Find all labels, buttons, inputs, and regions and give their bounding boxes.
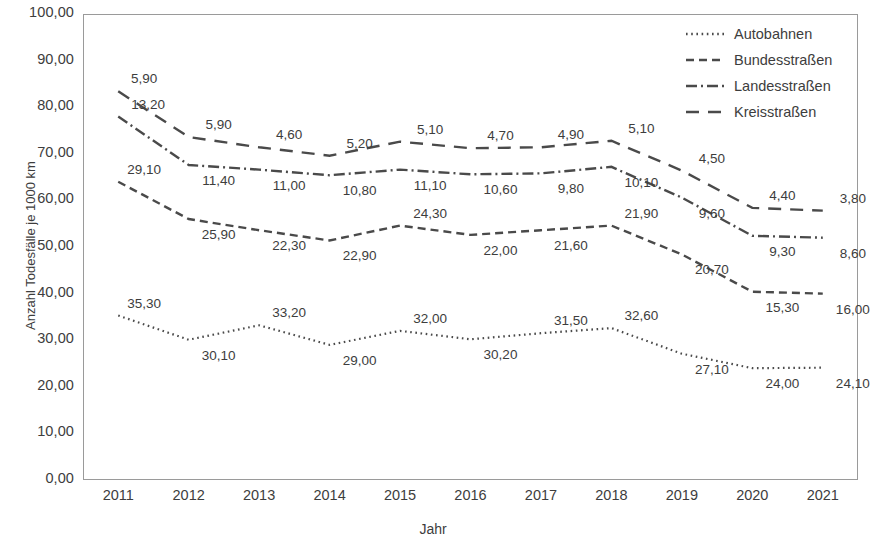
legend-item-autobahnen[interactable]: Autobahnen — [684, 24, 812, 44]
data-label: 4,60 — [276, 127, 302, 142]
data-label: 22,00 — [484, 242, 518, 257]
data-label: 5,90 — [131, 71, 157, 86]
data-label: 10,60 — [484, 182, 518, 197]
data-label: 9,30 — [769, 243, 795, 258]
data-label: 32,60 — [625, 308, 659, 323]
data-label: 35,30 — [127, 295, 161, 310]
legend-label: Autobahnen — [734, 26, 812, 42]
data-label: 11,00 — [273, 177, 306, 192]
legend-label: Bundesstraßen — [734, 52, 832, 68]
data-label: 5,10 — [417, 121, 443, 136]
data-label: 4,50 — [699, 150, 725, 165]
data-label: 29,00 — [343, 352, 377, 367]
data-label: 13,20 — [131, 96, 165, 111]
legend-line-icon — [684, 54, 726, 66]
data-label: 22,90 — [343, 248, 377, 263]
data-label: 27,10 — [695, 361, 729, 376]
data-label: 24,10 — [836, 375, 870, 390]
data-label: 5,20 — [346, 135, 372, 150]
data-label: 5,10 — [628, 120, 654, 135]
data-label: 11,10 — [414, 177, 447, 192]
data-label: 9,60 — [699, 205, 725, 220]
legend-item-landesstraßen[interactable]: Landesstraßen — [684, 76, 831, 96]
data-label: 8,60 — [840, 245, 866, 260]
data-label: 9,80 — [558, 181, 584, 196]
data-label: 4,40 — [769, 187, 795, 202]
data-label: 20,70 — [695, 262, 729, 277]
data-label: 21,90 — [625, 205, 659, 220]
data-label: 22,30 — [272, 238, 306, 253]
legend-line-icon — [684, 80, 726, 92]
legend-label: Kreisstraßen — [734, 104, 816, 120]
data-label: 31,50 — [554, 313, 588, 328]
legend-line-icon — [684, 28, 726, 40]
data-label: 3,80 — [840, 190, 866, 205]
legend-line-icon — [684, 106, 726, 118]
data-label: 30,10 — [202, 347, 236, 362]
data-label: 25,90 — [202, 227, 236, 242]
data-label: 15,30 — [765, 299, 799, 314]
legend-item-bundesstraßen[interactable]: Bundesstraßen — [684, 50, 832, 70]
data-label: 10,80 — [343, 183, 377, 198]
data-label: 33,20 — [272, 305, 306, 320]
data-label: 24,00 — [765, 376, 799, 391]
data-label: 5,90 — [206, 117, 232, 132]
data-label: 24,30 — [413, 205, 447, 220]
legend-label: Landesstraßen — [734, 78, 831, 94]
chart-legend: AutobahnenBundesstraßenLandesstraßenKrei… — [662, 14, 858, 120]
data-label: 29,10 — [127, 161, 161, 176]
data-label: 16,00 — [836, 301, 870, 316]
data-label: 21,60 — [554, 238, 588, 253]
data-label: 30,20 — [484, 347, 518, 362]
data-label: 32,00 — [413, 310, 447, 325]
data-label: 11,40 — [202, 172, 235, 187]
data-label: 4,90 — [558, 127, 584, 142]
data-label: 4,70 — [487, 128, 513, 143]
legend-item-kreisstraßen[interactable]: Kreisstraßen — [684, 102, 816, 122]
data-label: 10,10 — [625, 174, 659, 189]
